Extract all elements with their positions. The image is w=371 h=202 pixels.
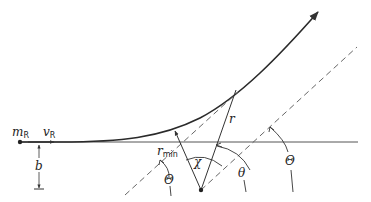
asymptote-dashed-line	[125, 92, 238, 195]
theta-cap-left-label: Θ	[164, 173, 174, 187]
scattering-center-dot	[199, 188, 203, 192]
impact-parameter-label: b	[35, 159, 43, 173]
r-line	[201, 90, 236, 190]
theta-cap-right-arrowhead-icon	[269, 127, 274, 132]
chi-angle-arc	[186, 157, 222, 166]
mass-label: mR	[12, 125, 29, 140]
mass-dot	[18, 140, 22, 144]
r-label: r	[229, 112, 236, 126]
theta-cap-right-tick	[291, 170, 293, 192]
theta-cap-right-label: Θ	[285, 154, 295, 168]
rmin-label: rmin	[157, 144, 178, 159]
theta-cap-right-arc	[270, 127, 288, 152]
theta-cap-left-arrowhead-icon	[159, 160, 164, 165]
theta-tick	[244, 180, 246, 192]
chi-label: χ	[193, 155, 202, 169]
scattering-diagram: mR vR b rmin r χ θ Θ Θ	[0, 0, 371, 202]
scattering-direction-dashed-line	[201, 47, 357, 190]
theta-cap-left-tick	[170, 186, 171, 196]
velocity-label: vR	[43, 125, 56, 140]
trajectory-curve	[20, 12, 318, 142]
theta-label: θ	[238, 166, 246, 180]
